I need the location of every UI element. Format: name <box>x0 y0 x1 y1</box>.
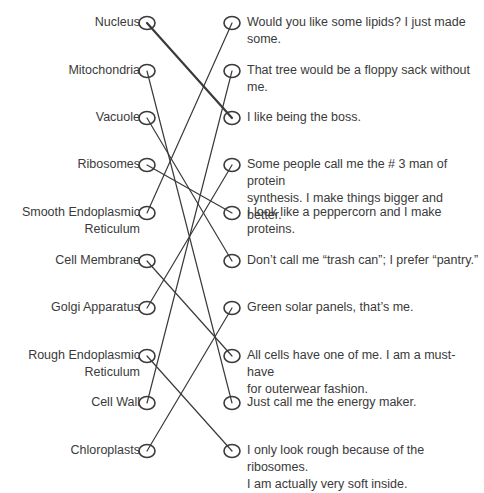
left-circles <box>139 17 155 458</box>
description-label: I only look rough because of the ribosom… <box>247 442 479 493</box>
description-label: I like being the boss. <box>247 109 479 126</box>
description-line2: me. <box>247 79 479 96</box>
connection-line <box>147 165 232 213</box>
organelle-label: Golgi Apparatus <box>51 299 140 316</box>
description-label: That tree would be a floppy sack without… <box>247 62 479 96</box>
connection-lines <box>147 23 232 451</box>
description-line1: All cells have one of me. I am a must-ha… <box>247 347 479 381</box>
connection-line <box>147 356 232 451</box>
organelle-label: Cell Membrane <box>55 252 140 269</box>
description-label: I look like a peppercorn and I makeprote… <box>247 204 479 238</box>
connection-line <box>147 308 232 451</box>
description-line1: Would you like some lipids? I just made <box>247 14 479 31</box>
description-line1: I look like a peppercorn and I make <box>247 204 479 221</box>
organelle-label-line1: Smooth Endoplasmic <box>22 204 140 221</box>
description-line2: proteins. <box>247 221 479 238</box>
organelle-label-line2: Reticulum <box>22 221 140 238</box>
description-line1: Just call me the energy maker. <box>247 394 479 411</box>
description-line1: I like being the boss. <box>247 109 479 126</box>
organelle-label: Vacuole <box>96 109 140 126</box>
organelle-label-line2: Reticulum <box>28 364 140 381</box>
connection-line <box>147 23 232 213</box>
description-label: All cells have one of me. I am a must-ha… <box>247 347 479 398</box>
description-label: Would you like some lipids? I just mades… <box>247 14 479 48</box>
description-label: Green solar panels, that’s me. <box>247 299 479 316</box>
organelle-label: Chloroplasts <box>71 442 140 459</box>
description-line1: Green solar panels, that’s me. <box>247 299 479 316</box>
connection-line <box>147 261 232 356</box>
description-label: Don’t call me “trash can”; I prefer “pan… <box>247 252 479 269</box>
organelle-label: Ribosomes <box>77 156 140 173</box>
organelle-label: Rough EndoplasmicReticulum <box>28 347 140 381</box>
description-line2: some. <box>247 31 479 48</box>
organelle-label: Cell Wall <box>91 394 140 411</box>
connection-line <box>147 23 232 118</box>
organelle-label: Nucleus <box>95 14 140 31</box>
description-line1: That tree would be a floppy sack without <box>247 62 479 79</box>
description-line1: I only look rough because of the ribosom… <box>247 442 479 476</box>
organelle-label-line1: Rough Endoplasmic <box>28 347 140 364</box>
description-line1: Don’t call me “trash can”; I prefer “pan… <box>247 252 479 269</box>
description-label: Just call me the energy maker. <box>247 394 479 411</box>
organelle-label: Smooth EndoplasmicReticulum <box>22 204 140 238</box>
description-line2: I am actually very soft inside. <box>247 476 479 493</box>
description-line1: Some people call me the # 3 man of prote… <box>247 156 479 190</box>
right-circles <box>224 17 240 458</box>
organelle-label: Mitochondria <box>68 62 140 79</box>
